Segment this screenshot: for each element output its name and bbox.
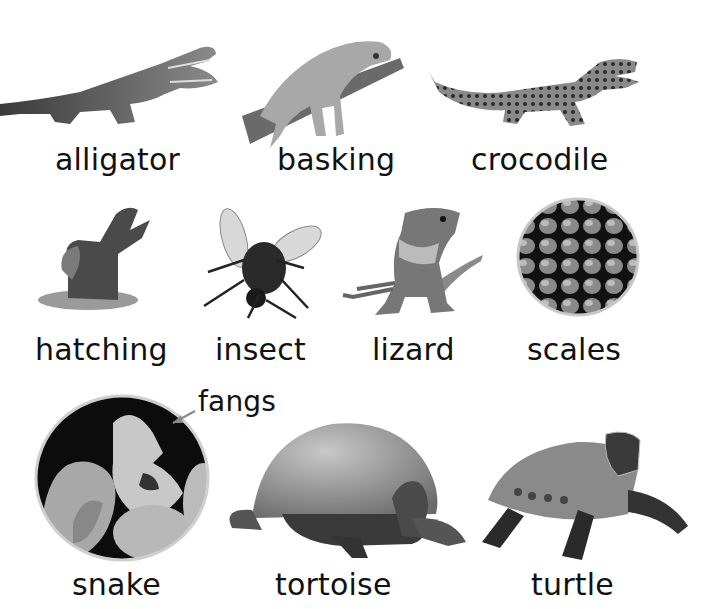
hatching-crocodile-photo xyxy=(38,200,153,312)
glossary-word: scales xyxy=(527,335,621,365)
glossary-word: alligator xyxy=(55,145,180,175)
crocodile-photo xyxy=(425,52,643,132)
glossary-word: lizard xyxy=(372,335,455,365)
fangs-callout-label: fangs xyxy=(198,388,276,416)
glossary-word: crocodile xyxy=(471,145,608,175)
glossary-word: insect xyxy=(215,335,306,365)
glossary-word: hatching xyxy=(35,335,168,365)
giant-tortoise-photo xyxy=(222,418,470,564)
alligator-photo xyxy=(0,42,225,127)
glossary-word: basking xyxy=(277,145,395,175)
glossary-word: snake xyxy=(72,570,161,600)
turtle-photo xyxy=(478,430,693,564)
snake-closeup-circle-photo xyxy=(33,393,211,563)
glossary-word: tortoise xyxy=(275,570,392,600)
fly-photo xyxy=(200,208,325,320)
water-dragon-lizard-photo xyxy=(335,203,485,321)
glossary-word: turtle xyxy=(531,570,614,600)
scales-closeup-circle-photo xyxy=(515,196,641,318)
iguana-on-branch-photo xyxy=(240,36,405,151)
